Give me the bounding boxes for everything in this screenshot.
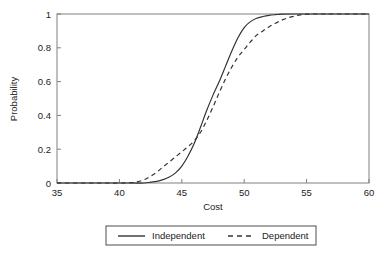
x-tick-label: 35 — [52, 187, 63, 198]
x-axis-tick-labels: 354045505560 — [52, 187, 375, 198]
y-axis-title: Probability — [8, 77, 19, 122]
x-tick-label: 60 — [364, 187, 375, 198]
y-axis-tick-labels: 00.20.40.60.81 — [38, 9, 51, 189]
chart-figure: 354045505560 00.20.40.60.81 Cost Probabi… — [0, 0, 388, 254]
x-axis-title: Cost — [203, 201, 223, 212]
y-tick-label: 0.2 — [38, 144, 51, 155]
series-line-independent — [57, 14, 369, 183]
y-tick-label: 0.4 — [38, 110, 51, 121]
chart-legend: Independent Dependent — [106, 226, 316, 245]
x-tick-label: 40 — [114, 187, 125, 198]
x-tick-label: 55 — [301, 187, 312, 198]
y-tick-label: 0.6 — [38, 76, 51, 87]
y-tick-label: 1 — [46, 9, 51, 20]
plot-area-border — [57, 14, 369, 183]
series-line-dependent — [57, 14, 369, 183]
x-tick-label: 50 — [239, 187, 250, 198]
y-axis-ticks — [57, 14, 61, 183]
cdf-chart: 354045505560 00.20.40.60.81 Cost Probabi… — [0, 0, 388, 254]
legend-label-independent: Independent — [152, 230, 205, 241]
x-tick-label: 45 — [177, 187, 188, 198]
legend-label-dependent: Dependent — [262, 230, 309, 241]
y-tick-label: 0.8 — [38, 42, 51, 53]
data-series-group — [57, 14, 369, 183]
y-tick-label: 0 — [46, 178, 51, 189]
plot-frame — [57, 14, 369, 183]
